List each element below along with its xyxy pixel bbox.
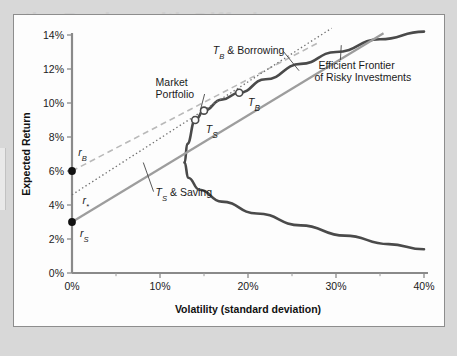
annotation-rs-label: rS xyxy=(80,227,89,244)
figure-page: the Banker with Differing Volatility pro… xyxy=(0,0,457,356)
point-marker-ts xyxy=(192,117,199,124)
y-tick-label-4%: 4% xyxy=(49,199,64,211)
annotation-market-portfolio-line2: Portfolio xyxy=(156,88,195,100)
chart-frame: 0%2%4%6%8%10%12%14%0%10%20%30%40%Volatil… xyxy=(13,14,445,327)
annotation-rstar-label: r* xyxy=(83,194,91,211)
point-marker-marketportfolio xyxy=(201,107,208,114)
annotation-market-portfolio-line1: Market xyxy=(156,76,188,88)
x-axis-title: Volatility (standard deviation) xyxy=(175,303,321,315)
y-axis-title: Expected Return xyxy=(20,112,32,195)
point-marker-rb xyxy=(68,167,76,175)
annotation-tb-point-label: TB xyxy=(248,96,260,113)
y-tick-label-2%: 2% xyxy=(49,233,64,245)
annotation-efficient-frontier-line2: of Risky Investments xyxy=(314,71,411,83)
y-tick-label-14%: 14% xyxy=(43,29,64,41)
y-tick-label-12%: 12% xyxy=(43,63,64,75)
point-marker-tb xyxy=(236,89,243,96)
annotation-efficient-frontier-line1: Efficient Frontier xyxy=(318,59,395,71)
point-marker-rs xyxy=(68,218,76,226)
annotation-ts-point-label: TS xyxy=(206,123,218,140)
y-tick-label-6%: 6% xyxy=(49,165,64,177)
y-tick-label-0%: 0% xyxy=(49,267,64,279)
y-tick-label-8%: 8% xyxy=(49,131,64,143)
annotation-rb-label: rB xyxy=(78,146,87,163)
x-tick-label-10%: 10% xyxy=(149,280,170,292)
annotation-tb-borrowing: TB & Borrowing xyxy=(213,44,285,61)
x-tick-label-40%: 40% xyxy=(413,280,434,292)
borrowing-tangent-line xyxy=(72,42,320,171)
x-tick-label-20%: 20% xyxy=(237,280,258,292)
x-tick-label-30%: 30% xyxy=(325,280,346,292)
efficient-frontier-lower-curve xyxy=(185,163,424,250)
y-tick-label-10%: 10% xyxy=(43,97,64,109)
x-tick-label-0%: 0% xyxy=(64,280,79,292)
page-edge-sliver xyxy=(0,148,6,210)
annotation-ts-saving: TS & Saving xyxy=(156,186,213,203)
efficient-frontier-chart: 0%2%4%6%8%10%12%14%0%10%20%30%40%Volatil… xyxy=(14,15,444,326)
